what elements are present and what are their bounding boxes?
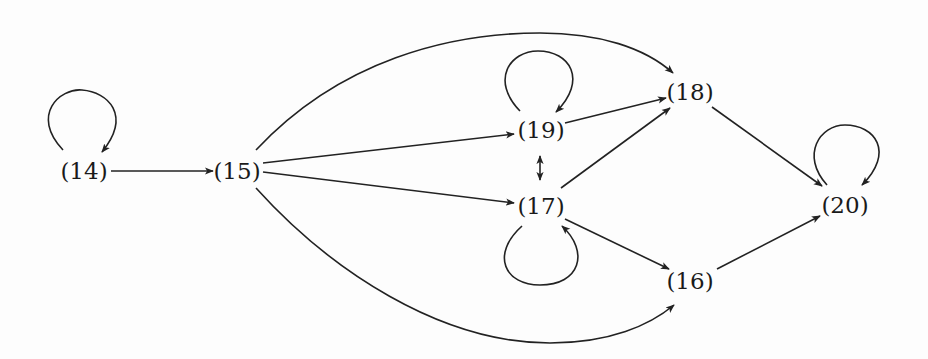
- edge-15-18: [256, 33, 673, 150]
- edge-17-16: [565, 219, 669, 269]
- edge-14-14-loop: [48, 90, 116, 152]
- edge-17-17-loop: [504, 226, 578, 285]
- graph-diagram: (14) (15) (19) (17) (18) (20) (16): [0, 0, 928, 359]
- edge-18-20: [712, 107, 822, 186]
- edge-20-20-loop: [814, 125, 879, 185]
- edge-19-18: [565, 98, 666, 123]
- graph-edges: [0, 0, 928, 359]
- edge-15-19: [263, 134, 514, 163]
- edge-15-17: [263, 172, 514, 203]
- node-18: (18): [666, 81, 713, 104]
- node-15: (15): [213, 160, 260, 183]
- edge-16-20: [717, 216, 820, 269]
- edge-15-16: [256, 188, 674, 343]
- node-16: (16): [666, 270, 713, 293]
- node-17: (17): [517, 195, 564, 218]
- node-14: (14): [60, 160, 107, 183]
- edge-19-19-loop: [505, 51, 573, 112]
- node-20: (20): [821, 194, 868, 217]
- node-19: (19): [517, 119, 564, 142]
